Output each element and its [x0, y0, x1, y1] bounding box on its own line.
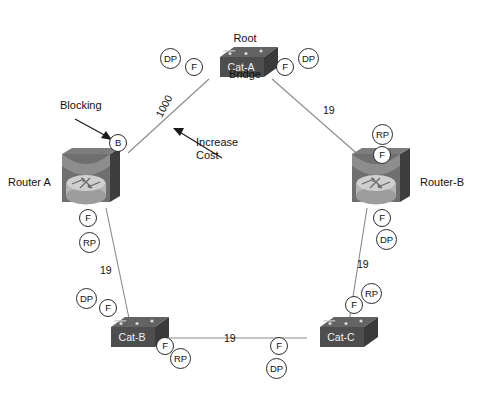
port-role-catc-top-f[interactable]: F [345, 296, 363, 314]
device-label-router-b: Router-B [420, 176, 464, 188]
link-cost-routerb-catc: 19 [357, 258, 369, 270]
port-role-routerb-bot-dp[interactable]: DP [376, 229, 397, 250]
port-role-cata-left-dp[interactable]: DP [160, 48, 181, 69]
root-bridge-label-line1: Root [207, 32, 283, 44]
increase-cost-annotation: Increase Cost [196, 136, 238, 162]
port-role-catb-top-dp[interactable]: DP [76, 288, 97, 309]
port-role-routera-bot-rp[interactable]: RP [79, 232, 100, 253]
port-role-catb-top-f[interactable]: F [99, 299, 117, 317]
root-bridge-label-line2: Bridge [207, 68, 283, 80]
link-cost-catb-catc: 19 [224, 332, 236, 344]
port-role-cata-right-dp[interactable]: DP [298, 48, 319, 69]
increase-cost-line1: Increase [196, 136, 238, 149]
port-role-catc-left-dp[interactable]: DP [266, 358, 287, 379]
device-cat-c[interactable]: Cat-C [306, 317, 378, 355]
port-role-routera-bot-f[interactable]: F [79, 209, 97, 227]
blocking-arrow [75, 119, 112, 140]
device-router-a[interactable] [58, 148, 122, 214]
device-label-router-a: Router A [8, 176, 51, 188]
network-diagram-canvas: Root Bridge Cat-A [0, 0, 479, 393]
port-role-catc-top-rp[interactable]: RP [361, 283, 382, 304]
increase-cost-line2: Cost [196, 149, 238, 162]
port-role-catb-right-rp[interactable]: RP [170, 348, 191, 369]
root-bridge-label: Root Bridge [207, 8, 283, 104]
port-role-routerb-top-f[interactable]: F [373, 146, 391, 164]
port-role-cata-left-f[interactable]: F [185, 58, 203, 76]
link-line-cata-routerb [272, 79, 362, 158]
link-cost-routera-catb: 19 [100, 264, 112, 276]
port-role-routera-top-b[interactable]: B [109, 134, 127, 152]
blocking-annotation: Blocking [60, 99, 102, 112]
link-cost-cata-routerb: 19 [323, 104, 335, 116]
port-role-catc-left-f[interactable]: F [270, 337, 288, 355]
port-role-routerb-bot-f[interactable]: F [373, 209, 391, 227]
port-role-routerb-top-rp[interactable]: RP [372, 124, 393, 145]
